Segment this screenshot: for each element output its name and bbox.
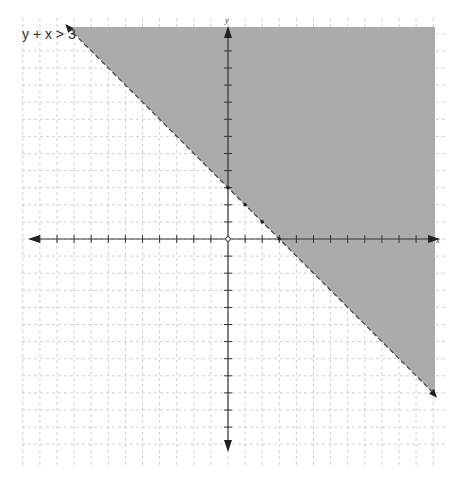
coordinate-plane: xy <box>0 0 459 477</box>
origin-marker <box>226 237 231 242</box>
y-axis-down-arrow-icon <box>224 440 232 452</box>
boundary-point <box>226 186 230 190</box>
inequality-label: y + x > 3 <box>22 26 76 42</box>
boundary-point <box>243 203 247 207</box>
boundary-point <box>278 237 282 241</box>
y-axis-label: y <box>224 16 229 25</box>
x-axis-label: x <box>435 236 440 245</box>
boundary-point <box>260 220 264 224</box>
x-axis-left-arrow-icon <box>28 235 40 243</box>
